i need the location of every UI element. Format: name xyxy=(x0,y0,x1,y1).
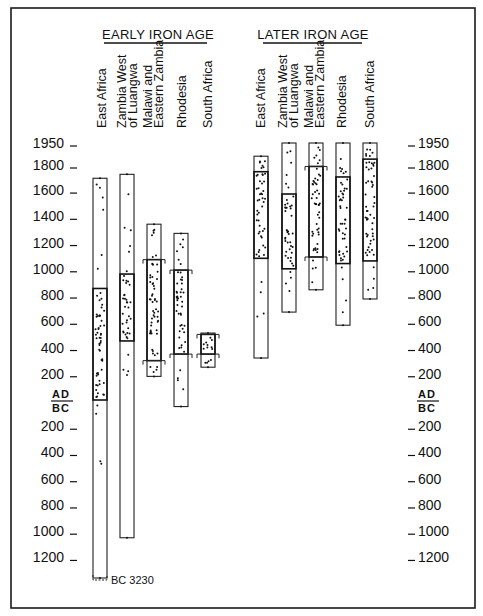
col-label-early-zambia-2: of Luangwa xyxy=(126,63,140,128)
bc-label: BC xyxy=(418,402,436,414)
data-point xyxy=(97,315,99,317)
data-point xyxy=(262,230,264,232)
data-point xyxy=(98,349,100,351)
data-point xyxy=(368,168,370,170)
data-point xyxy=(123,294,125,296)
data-point xyxy=(98,343,100,345)
data-point xyxy=(96,295,98,297)
outer-range-box xyxy=(363,143,377,299)
data-point xyxy=(341,267,343,269)
data-point xyxy=(100,463,102,465)
data-point xyxy=(339,167,341,169)
data-point xyxy=(100,340,102,342)
data-point xyxy=(203,348,205,350)
data-point xyxy=(373,217,375,219)
data-point xyxy=(179,330,181,332)
data-point xyxy=(346,251,348,253)
data-point xyxy=(96,337,98,339)
data-point xyxy=(101,369,103,371)
data-point xyxy=(95,328,97,330)
data-point xyxy=(180,347,182,349)
data-point xyxy=(258,251,260,253)
region-bar xyxy=(93,177,107,580)
region-bar xyxy=(143,223,165,377)
data-point xyxy=(125,334,127,336)
data-point xyxy=(318,217,320,219)
data-point xyxy=(371,152,373,154)
right-tick-label-bc: 800 xyxy=(418,497,442,513)
data-point xyxy=(262,244,264,246)
data-point xyxy=(152,256,154,258)
data-point xyxy=(129,333,131,335)
data-point xyxy=(288,233,290,235)
data-point xyxy=(179,325,181,327)
data-point xyxy=(256,315,258,317)
data-point xyxy=(150,298,152,300)
ad-label: AD xyxy=(418,388,436,400)
data-point xyxy=(259,225,261,227)
data-point xyxy=(312,193,314,195)
data-point xyxy=(338,250,340,252)
data-point xyxy=(99,460,101,462)
data-point xyxy=(367,289,369,291)
data-point xyxy=(100,333,102,335)
data-point xyxy=(340,182,342,184)
data-point xyxy=(179,243,181,245)
data-point xyxy=(208,360,210,362)
data-point xyxy=(341,168,343,170)
data-point xyxy=(206,344,208,346)
data-point xyxy=(312,233,314,235)
data-point xyxy=(183,331,185,333)
early-column-labels: East Africa Zambia West of Luangwa Malaw… xyxy=(95,40,215,128)
data-point xyxy=(261,183,263,185)
data-point xyxy=(156,301,158,303)
col-label-later-malawi-2: Eastern Zambia xyxy=(313,40,327,128)
outer-range-box xyxy=(254,156,268,358)
data-point xyxy=(97,268,99,270)
data-point xyxy=(371,228,373,230)
data-point xyxy=(125,299,127,301)
data-point xyxy=(316,251,318,253)
data-point xyxy=(264,198,266,200)
data-point xyxy=(153,232,155,234)
data-point xyxy=(372,184,374,186)
data-point xyxy=(180,312,182,314)
data-point xyxy=(264,173,266,175)
data-point xyxy=(285,183,287,185)
data-point xyxy=(365,206,367,208)
left-tick-label: 1950 xyxy=(33,135,64,151)
data-point xyxy=(292,265,294,267)
col-label-early-south-africa: South Africa xyxy=(201,61,215,128)
data-point xyxy=(292,233,294,235)
right-tick-label: 600 xyxy=(418,313,442,329)
left-tick-label: 1200 xyxy=(33,235,64,251)
data-point xyxy=(366,219,368,221)
data-point xyxy=(342,278,344,280)
col-label-later-east-africa: East Africa xyxy=(254,68,268,128)
data-point xyxy=(256,254,258,256)
data-point xyxy=(97,385,99,387)
right-tick-label-bc: 1200 xyxy=(418,549,449,565)
data-point xyxy=(182,388,184,390)
data-point xyxy=(256,214,258,216)
data-point xyxy=(346,188,348,190)
data-point xyxy=(264,247,266,249)
data-point xyxy=(287,187,289,189)
bars xyxy=(93,142,377,580)
data-point xyxy=(369,251,371,253)
data-point xyxy=(126,319,128,321)
data-point xyxy=(316,223,318,225)
region-bar xyxy=(170,232,192,407)
data-point xyxy=(285,255,287,257)
data-point xyxy=(176,292,178,294)
data-point xyxy=(367,180,369,182)
data-point xyxy=(373,254,375,256)
col-label-later-south-africa: South Africa xyxy=(363,61,377,128)
data-point xyxy=(345,299,347,301)
data-point xyxy=(317,248,319,250)
data-point xyxy=(365,153,367,155)
data-point xyxy=(124,227,126,229)
data-point xyxy=(344,223,346,225)
data-point xyxy=(292,195,294,197)
data-point xyxy=(206,346,208,348)
